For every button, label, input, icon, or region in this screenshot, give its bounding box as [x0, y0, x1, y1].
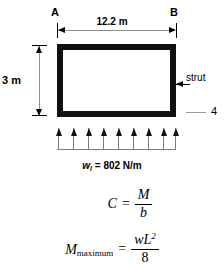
- arrow-left-icon: [58, 27, 65, 33]
- load-subscript: l: [90, 165, 92, 172]
- fraction-denominator: 8: [139, 251, 152, 266]
- fraction: wL2 8: [131, 232, 159, 265]
- span-dimension-label: 12.2 m: [0, 16, 224, 27]
- load-magnitude-label: wl = 802 N/m: [0, 160, 224, 172]
- note-number-label: 4: [211, 105, 217, 117]
- arrow-down-icon: [36, 109, 42, 116]
- load-arrow-head-icon: [173, 128, 179, 136]
- load-arrow-head-icon: [146, 128, 152, 136]
- beam-diagram-figure: A B 12.2 m 3 m strut 4 w: [0, 0, 224, 268]
- equation-compression-force: C = M b: [0, 188, 224, 220]
- beam-cross-section: [57, 44, 176, 117]
- load-equals: =: [95, 160, 101, 171]
- load-symbol: w: [82, 160, 90, 171]
- fraction-numerator: M: [135, 188, 153, 203]
- load-unit: N/m: [123, 160, 142, 171]
- fraction-denominator: b: [137, 206, 150, 221]
- equation-operator: =: [122, 196, 130, 212]
- fraction: M b: [135, 188, 153, 220]
- numerator-variable: wL: [134, 232, 151, 247]
- equation-lhs: M: [65, 242, 77, 257]
- load-arrow-head-icon: [116, 128, 122, 136]
- load-arrow-head-icon: [161, 128, 167, 136]
- strut-arrow-icon: [176, 81, 183, 87]
- equation-lhs: C: [108, 196, 117, 212]
- distributed-load-group: [57, 128, 176, 150]
- load-value: 802: [103, 160, 120, 171]
- equation-lhs-group: Mmaximum: [65, 240, 113, 258]
- note-leader-line: [186, 112, 206, 113]
- fraction-numerator: wL2: [131, 232, 159, 248]
- load-arrow-head-icon: [86, 128, 92, 136]
- load-arrow-head-icon: [71, 128, 77, 136]
- equation-maximum-moment: Mmaximum = wL2 8: [0, 232, 224, 265]
- strut-label: strut: [186, 72, 205, 83]
- arrow-up-icon: [36, 46, 42, 53]
- load-arrow-head-icon: [101, 128, 107, 136]
- equation-operator: =: [118, 241, 126, 257]
- span-dimension-line: [58, 30, 175, 31]
- equation-lhs-subscript: maximum: [77, 248, 114, 258]
- depth-dimension-line: [39, 45, 40, 116]
- numerator-exponent: 2: [151, 231, 156, 241]
- depth-dimension-label: 3 m: [2, 74, 21, 86]
- load-arrow-head-icon: [131, 128, 137, 136]
- load-baseline: [57, 149, 176, 150]
- arrow-right-icon: [169, 27, 176, 33]
- extension-line-right: [176, 23, 177, 38]
- load-arrow-head-icon: [56, 128, 62, 136]
